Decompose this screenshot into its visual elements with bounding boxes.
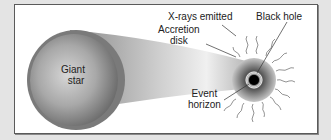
accretion-disk-label: Accretion disk (158, 24, 200, 46)
event-horizon-label: Event horizon (188, 88, 221, 110)
xrays-emitted-label: X-rays emitted (168, 11, 232, 22)
giant-star-label: Giant star (64, 64, 86, 86)
black-hole-label: Black hole (256, 11, 302, 22)
black-hole-icon (232, 58, 276, 102)
